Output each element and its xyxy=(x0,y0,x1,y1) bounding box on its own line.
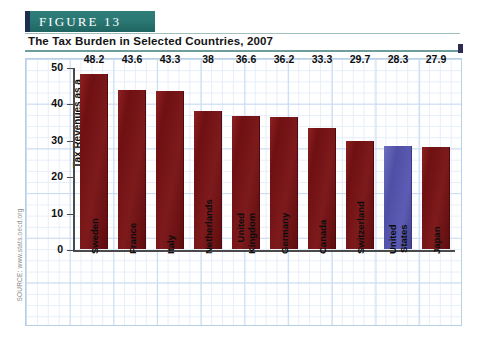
bar-series: 48.2Sweden43.6France43.3Italy38Netherlan… xyxy=(75,67,455,249)
y-axis-tick-label: 40 xyxy=(51,97,63,109)
figure-subtitle: The Tax Burden in Selected Countries, 20… xyxy=(28,35,273,47)
bar-value-label: 28.3 xyxy=(388,53,408,65)
source-note: SOURCE: www.stats.oecd.org xyxy=(16,192,23,302)
bar-value-label: 36.2 xyxy=(274,53,294,65)
y-axis-tick: 40 xyxy=(67,104,74,105)
bar-value-label: 27.9 xyxy=(426,53,446,65)
bar-group[interactable]: 28.3UnitedStates xyxy=(380,67,416,249)
figure-banner-body: FIGURE 13 xyxy=(30,11,155,32)
x-axis-category-label: Japan xyxy=(431,227,442,254)
x-axis-category-label: Sweden xyxy=(89,218,100,254)
x-axis-category-label: Germany xyxy=(279,213,290,254)
x-axis-category-label: UnitedKingdom xyxy=(235,213,257,254)
y-axis-tick: 50 xyxy=(67,68,74,69)
y-axis-tick: 30 xyxy=(67,141,74,142)
title-rule-top xyxy=(25,33,460,34)
bar-group[interactable]: 43.3Italy xyxy=(152,67,188,249)
bar-value-label: 48.2 xyxy=(84,53,104,65)
bar[interactable] xyxy=(156,91,184,249)
bar-value-label: 38 xyxy=(202,53,214,65)
x-axis-category-label-line2: States xyxy=(398,224,409,254)
x-axis-category-label: Italy xyxy=(165,235,176,254)
y-axis-tick-label: 30 xyxy=(51,134,63,146)
bar-value-label: 36.6 xyxy=(236,53,256,65)
x-axis-category-label: Switzerland xyxy=(355,201,366,254)
bar-value-label: 33.3 xyxy=(312,53,332,65)
y-axis-tick-label: 50 xyxy=(51,61,63,73)
x-axis-category-label: France xyxy=(127,223,138,254)
y-axis-tick-label: 10 xyxy=(51,207,63,219)
bar-value-label: 29.7 xyxy=(350,53,370,65)
x-axis-category-label: Netherlands xyxy=(203,199,214,254)
bar-value-label: 43.6 xyxy=(122,53,142,65)
title-rule-endcap xyxy=(458,44,463,53)
bar-group[interactable]: 33.3Canada xyxy=(304,67,340,249)
x-axis-category-label: UnitedStates xyxy=(387,224,409,254)
chart-plot-area: Tax Revenues as aPercentage of GDP 01020… xyxy=(25,58,462,326)
y-axis-tick: 10 xyxy=(67,214,74,215)
bar-value-label: 43.3 xyxy=(160,53,180,65)
bar-group[interactable]: 43.6France xyxy=(114,67,150,249)
x-axis-category-label: Canada xyxy=(317,220,328,254)
y-axis-tick-label: 20 xyxy=(51,170,63,182)
bar-group[interactable]: 29.7Switzerland xyxy=(342,67,378,249)
bar-group[interactable]: 36.6UnitedKingdom xyxy=(228,67,264,249)
y-axis-tick: 20 xyxy=(67,177,74,178)
bar-group[interactable]: 36.2Germany xyxy=(266,67,302,249)
figure-banner-label: FIGURE 13 xyxy=(39,14,121,30)
y-axis-tick: 0 xyxy=(67,250,74,251)
figure-banner: FIGURE 13 xyxy=(25,11,155,32)
bar-group[interactable]: 38Netherlands xyxy=(190,67,226,249)
bar-group[interactable]: 27.9Japan xyxy=(418,67,454,249)
x-axis-category-label-line2: Kingdom xyxy=(246,213,257,254)
y-axis-tick-label: 0 xyxy=(57,243,63,255)
bar-group[interactable]: 48.2Sweden xyxy=(76,67,112,249)
